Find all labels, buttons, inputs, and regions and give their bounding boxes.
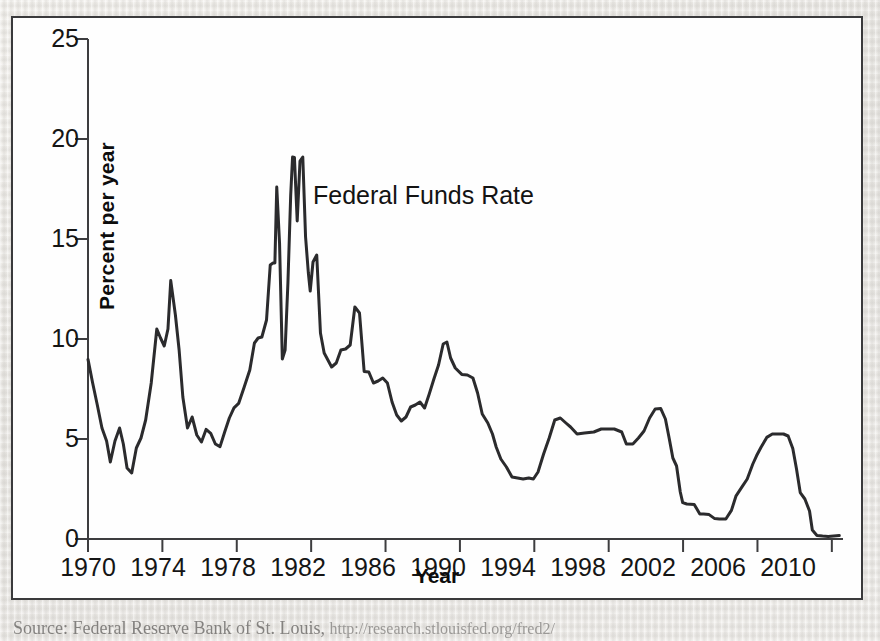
y-tick-label-20: 20	[33, 126, 79, 151]
y-tick-label-15: 15	[33, 226, 79, 251]
chart-axes	[75, 39, 843, 552]
y-axis-title: Percent per year	[95, 126, 119, 326]
series-annotation-federal-funds-rate: Federal Funds Rate	[313, 181, 534, 210]
y-tick-label-5: 5	[33, 426, 79, 451]
source-caption-url: http://research.stlouisfed.org/fred2/	[329, 620, 554, 637]
source-caption: Source: Federal Reserve Bank of St. Loui…	[13, 618, 555, 639]
y-axis-title-text: Percent per year	[95, 142, 118, 310]
chart-figure-frame: 25 20 15 10 5 0 1970 1974 1978 1982 1986…	[11, 16, 863, 600]
y-tick-label-0: 0	[33, 526, 79, 551]
scanned-figure-page: 25 20 15 10 5 0 1970 1974 1978 1982 1986…	[0, 0, 880, 641]
chart-plot-svg	[13, 18, 865, 602]
y-tick-label-25: 25	[33, 26, 79, 51]
x-axis-title: Year	[13, 564, 861, 588]
y-tick-label-10: 10	[33, 326, 79, 351]
source-caption-text: Source: Federal Reserve Bank of St. Loui…	[13, 618, 325, 638]
chart-series-lines	[88, 157, 839, 536]
